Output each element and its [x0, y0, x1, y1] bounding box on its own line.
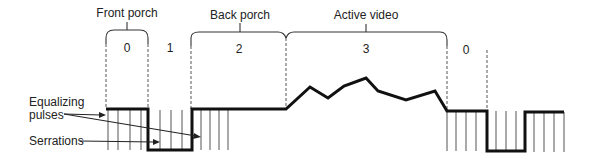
interval-number-2: 2 — [236, 42, 243, 56]
sync-waveform-diagram: Front porch Back porch Active video 0 1 … — [0, 0, 591, 162]
serrations-label: Serrations — [29, 134, 84, 148]
serration-lines — [108, 109, 564, 152]
equalizing-label-line1: Equalizing — [29, 95, 84, 109]
interval-number-3: 3 — [363, 42, 370, 56]
back-porch-label: Back porch — [210, 8, 270, 22]
sync-signal-waveform — [106, 78, 564, 151]
equalizing-label-line2: pulses — [29, 108, 64, 122]
active-video-label: Active video — [334, 8, 399, 22]
interval-number-1: 1 — [167, 41, 174, 55]
equalizing-arrow-2 — [64, 114, 201, 139]
interval-number-0-repeat: 0 — [463, 43, 470, 57]
front-porch-label: Front porch — [96, 6, 157, 20]
interval-number-0: 0 — [124, 41, 131, 55]
